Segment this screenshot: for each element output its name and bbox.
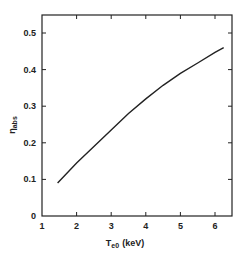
y-tick-label: 0.1 xyxy=(23,174,36,184)
y-tick-label: 0.2 xyxy=(23,138,36,148)
y-tick-label: 0.4 xyxy=(23,65,36,75)
y-tick-label: 0 xyxy=(31,211,36,221)
x-tick-label: 4 xyxy=(143,221,148,231)
x-tick-label: 5 xyxy=(178,221,183,231)
x-tick-label: 6 xyxy=(212,221,217,231)
y-axis-label: ηabs xyxy=(7,116,18,134)
x-tick-label: 2 xyxy=(74,221,79,231)
y-tick-label: 0.3 xyxy=(23,101,36,111)
x-tick-label: 1 xyxy=(39,221,44,231)
y-tick-labels: 00.10.20.30.40.5 xyxy=(23,28,36,221)
x-tick-labels: 123456 xyxy=(39,221,217,231)
y-tick-label: 0.5 xyxy=(23,28,36,38)
data-line xyxy=(58,48,224,184)
axis-ticks xyxy=(42,15,232,216)
x-axis-label: Te0(keV) xyxy=(106,238,144,249)
plot-frame xyxy=(42,15,232,216)
line-chart: 123456 00.10.20.30.40.5 Te0(keV) ηabs xyxy=(0,0,247,259)
x-tick-label: 3 xyxy=(109,221,114,231)
